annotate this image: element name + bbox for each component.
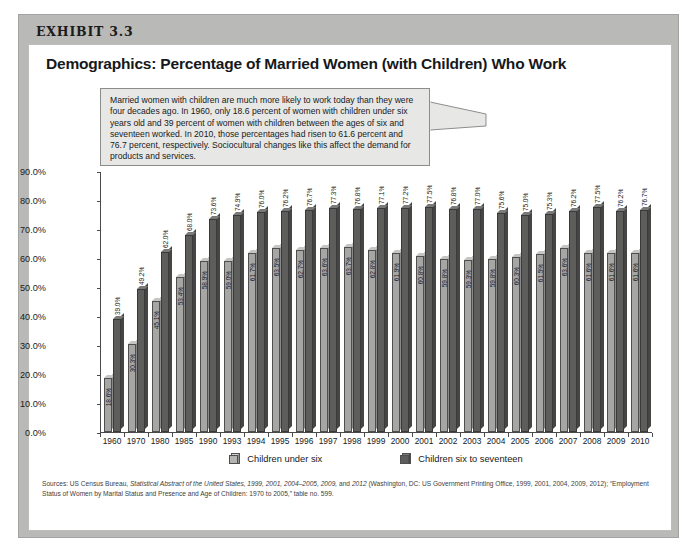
bar-children-under-six[interactable]: 60.8% [416,256,424,432]
bar-value-label: 59.0% [225,271,232,289]
bar-value-label: 49.2% [138,267,145,285]
bar-children-six-to-seventeen[interactable]: 77.2% [401,208,409,432]
bar-face [497,213,505,432]
bar-children-six-to-seventeen[interactable]: 76.7% [305,210,313,432]
bar-children-under-six[interactable]: 61.9% [392,253,400,433]
bar-children-under-six[interactable]: 59.0% [224,261,232,432]
bar-children-under-six[interactable]: 63.6% [560,248,568,432]
x-axis-tick-mark [652,433,653,437]
chart-plot-area: 90.0%80.0%70.0%60.0%50.0%40.0%30.0%20.0%… [100,172,652,433]
bar-children-six-to-seventeen[interactable]: 75.6% [497,213,505,432]
bar-group: 59.8%75.6% [484,172,508,432]
bar-group: 63.5%76.2% [269,172,293,432]
bar-group: 59.8%76.8% [436,172,460,432]
bar-group: 53.4%68.0% [173,172,197,432]
x-axis-tick-label: 2009 [604,436,628,446]
bar-children-six-to-seventeen[interactable]: 77.0% [473,209,481,432]
bar-value-label: 76.8% [449,187,456,205]
bar-children-six-to-seventeen[interactable]: 68.0% [185,235,193,432]
bar-children-under-six[interactable]: 18.6% [104,378,112,432]
bar-children-under-six[interactable]: 58.9% [200,261,208,432]
legend-item[interactable]: Children six to seventeen [400,453,522,464]
source-italic-1: Statistical Abstract of the United State… [130,480,337,487]
bar-value-label: 18.6% [105,388,112,406]
y-axis-tick-label: 70.0% [0,225,46,235]
bar-children-six-to-seventeen[interactable]: 77.5% [593,207,601,432]
bar-children-under-six[interactable]: 60.3% [512,257,520,432]
bar-children-six-to-seventeen[interactable]: 76.0% [257,212,265,432]
bar-children-under-six[interactable]: 61.7% [248,253,256,432]
bar-group: 63.7%76.8% [341,172,365,432]
chart-legend: Children under sixChildren six to sevent… [100,453,652,464]
bar-children-six-to-seventeen[interactable]: 76.2% [616,211,624,432]
bar-children-six-to-seventeen[interactable]: 62.0% [161,252,169,432]
bar-children-six-to-seventeen[interactable]: 39.0% [113,319,121,432]
bar-face [377,208,385,432]
bar-value-label: 73.6% [210,196,217,214]
y-axis-tick-label: 80.0% [0,196,46,206]
bar-children-six-to-seventeen[interactable]: 76.8% [353,209,361,432]
bar-value-label: 75.6% [497,191,504,209]
bar-children-under-six[interactable]: 59.8% [440,259,448,432]
bar-children-six-to-seventeen[interactable]: 74.9% [233,215,241,432]
bar-value-label: 59.8% [488,269,495,287]
bar-value-label: 63.5% [273,258,280,276]
bar-children-six-to-seventeen[interactable]: 77.1% [377,208,385,432]
bar-children-under-six[interactable]: 61.6% [607,253,615,432]
bar-children-under-six[interactable]: 63.7% [344,247,352,432]
bar-group: 63.6%77.3% [317,172,341,432]
legend-item[interactable]: Children under six [229,453,322,464]
y-axis-tick-label: 60.0% [0,254,46,264]
bar-children-six-to-seventeen[interactable]: 76.8% [449,209,457,432]
bar-group: 61.6%77.5% [580,172,604,432]
x-axis-tick-label: 2004 [484,436,508,446]
x-axis-tick-label: 2006 [532,436,556,446]
legend-label: Children six to seventeen [418,454,522,464]
bar-value-label: 62.7% [297,260,304,278]
bar-children-under-six[interactable]: 59.8% [488,259,496,432]
bar-children-six-to-seventeen[interactable]: 76.2% [569,211,577,432]
bar-value-label: 75.3% [545,191,552,209]
bar-value-label: 60.8% [416,266,423,284]
bar-value-label: 58.9% [201,271,208,289]
bar-group: 59.3%77.0% [460,172,484,432]
bar-children-six-to-seventeen[interactable]: 77.3% [329,208,337,432]
y-axis-tick-label: 40.0% [0,312,46,322]
y-axis-tick-label: 90.0% [0,167,46,177]
bar-children-six-to-seventeen[interactable]: 76.2% [281,211,289,432]
bar-face [569,211,577,432]
bar-group: 61.5%75.3% [532,172,556,432]
bar-children-under-six[interactable]: 62.7% [296,250,304,432]
bar-children-six-to-seventeen[interactable]: 49.2% [137,289,145,432]
bar-children-six-to-seventeen[interactable]: 73.6% [209,219,217,432]
bar-children-under-six[interactable]: 63.5% [272,248,280,432]
bar-children-six-to-seventeen[interactable]: 77.5% [425,207,433,432]
x-axis-tick-label: 1985 [172,436,196,446]
source-note: Sources: US Census Bureau, Statistical A… [42,479,664,499]
bar-value-label: 61.9% [392,263,399,281]
bar-value-label: 59.3% [464,270,471,288]
source-italic-2: 2012 [352,480,367,487]
bar-children-under-six[interactable]: 45.1% [152,301,160,432]
bar-children-under-six[interactable]: 63.6% [320,248,328,432]
bar-children-under-six[interactable]: 62.8% [368,250,376,432]
callout-text: Married women with children are much mor… [110,95,413,161]
bar-face [425,207,433,432]
bar-children-six-to-seventeen[interactable]: 75.3% [545,214,553,432]
bar-children-under-six[interactable]: 61.6% [584,253,592,432]
bar-children-six-to-seventeen[interactable]: 76.7% [640,210,648,432]
bar-value-label: 76.0% [258,189,265,207]
bar-children-under-six[interactable]: 53.4% [176,277,184,432]
bar-children-under-six[interactable]: 61.5% [536,254,544,432]
bar-value-label: 61.6% [584,263,591,281]
bar-children-six-to-seventeen[interactable]: 75.0% [521,215,529,433]
bar-group: 61.6%76.7% [628,172,652,432]
bar-value-label: 63.6% [560,258,567,276]
bar-children-under-six[interactable]: 30.3% [128,344,136,432]
bar-children-under-six[interactable]: 61.6% [631,253,639,432]
x-axis-tick-label: 2008 [580,436,604,446]
bar-value-label: 77.1% [377,186,384,204]
bar-children-under-six[interactable]: 59.3% [464,260,472,432]
bar-value-label: 62.8% [368,260,375,278]
x-axis-tick-label: 1996 [292,436,316,446]
